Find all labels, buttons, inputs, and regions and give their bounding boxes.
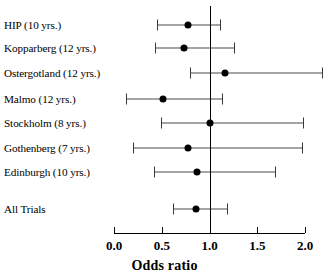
odds-ratio-point <box>221 70 228 77</box>
ci-cap-lower <box>155 43 156 54</box>
ci-cap-upper <box>322 68 323 79</box>
trial-label: Kopparberg (12 yrs.) <box>4 42 96 54</box>
ci-cap-lower <box>173 204 174 215</box>
odds-ratio-point <box>193 206 200 213</box>
ci-cap-lower <box>190 68 191 79</box>
odds-ratio-point <box>185 145 192 152</box>
x-axis-tick <box>114 227 115 233</box>
x-axis-tick-label: 0.5 <box>154 238 170 254</box>
x-axis-tick <box>257 227 258 233</box>
ci-cap-lower <box>157 20 158 31</box>
trial-label: Ostergotland (12 yrs.) <box>4 67 100 79</box>
ci-cap-upper <box>275 167 276 178</box>
confidence-interval-line <box>155 48 234 49</box>
ci-cap-upper <box>302 143 303 154</box>
ci-cap-lower <box>126 94 127 105</box>
ci-cap-upper <box>303 118 304 129</box>
confidence-interval-line <box>133 148 302 149</box>
ci-cap-lower <box>154 167 155 178</box>
reference-line-null-effect <box>210 6 211 233</box>
trial-label: Stockholm (8 yrs.) <box>4 117 86 129</box>
ci-cap-upper <box>222 94 223 105</box>
odds-ratio-point <box>194 169 201 176</box>
ci-cap-upper <box>227 204 228 215</box>
confidence-interval-line <box>126 99 222 100</box>
ci-cap-upper <box>220 20 221 31</box>
x-axis-title: Odds ratio <box>0 258 329 274</box>
x-axis-tick-label: 2.0 <box>297 238 313 254</box>
x-axis-line <box>114 233 305 234</box>
x-axis-tick-label: 1.0 <box>201 238 217 254</box>
odds-ratio-point <box>180 45 187 52</box>
x-axis-tick-label: 1.5 <box>249 238 265 254</box>
ci-cap-upper <box>234 43 235 54</box>
x-axis-tick <box>210 227 211 233</box>
trial-label: Edinburgh (10 yrs.) <box>4 166 90 178</box>
trial-label: Gothenberg (7 yrs.) <box>4 142 90 154</box>
trial-label: HIP (10 yrs.) <box>4 19 61 31</box>
odds-ratio-point <box>159 96 166 103</box>
confidence-interval-line <box>154 172 275 173</box>
ci-cap-lower <box>133 143 134 154</box>
confidence-interval-line <box>173 209 226 210</box>
x-axis-tick <box>305 227 306 233</box>
trial-label: All Trials <box>4 203 46 215</box>
x-axis-tick <box>162 227 163 233</box>
trial-label: Malmo (12 yrs.) <box>4 93 76 105</box>
odds-ratio-point <box>184 22 191 29</box>
confidence-interval-line <box>161 123 303 124</box>
forest-plot: HIP (10 yrs.)Kopparberg (12 yrs.)Ostergo… <box>0 0 329 280</box>
ci-cap-lower <box>161 118 162 129</box>
x-axis-tick-label: 0.0 <box>106 238 122 254</box>
